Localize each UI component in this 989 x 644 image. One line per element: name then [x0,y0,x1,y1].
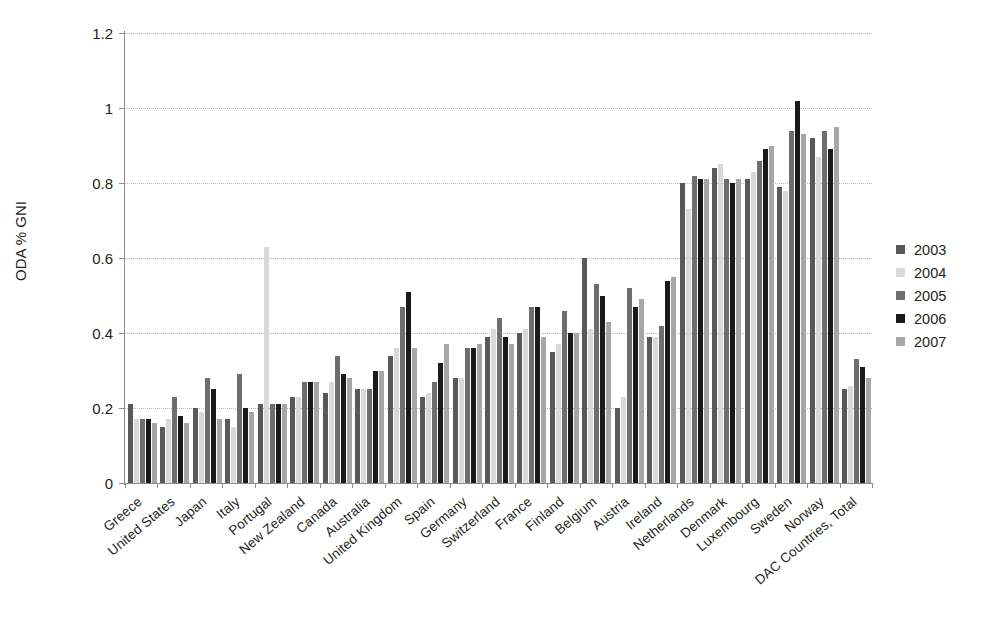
bar [665,281,670,484]
x-tick-mark [742,483,743,488]
bar [503,337,508,483]
x-tick-mark [612,483,613,488]
bar [588,329,593,483]
bar [686,209,691,483]
bar [444,344,449,483]
bar [777,187,782,483]
bar [412,348,417,483]
y-tick-label: 0.4 [92,325,113,342]
x-tick-mark [710,483,711,488]
bar [400,307,405,483]
bar-group [712,33,741,483]
legend-item[interactable]: 2005 [896,284,946,307]
bar-group [225,33,254,483]
x-tick-mark [255,483,256,488]
bar-group [128,33,157,483]
bar-group [550,33,579,483]
bar [659,326,664,484]
x-tick-mark [450,483,451,488]
legend-label: 2007 [914,334,946,350]
bar-group [160,33,189,483]
bar [211,389,216,483]
bar-group [745,33,774,483]
bar [314,382,319,483]
bar [615,408,620,483]
y-tick-label: 0.6 [92,250,113,267]
bar [535,307,540,483]
x-tick-mark [807,483,808,488]
legend-label: 2005 [914,288,946,304]
x-axis-line [124,483,873,484]
bar [582,258,587,483]
legend-item[interactable]: 2003 [896,238,946,261]
y-tick-mark [119,33,124,34]
bar [574,333,579,483]
bar [795,101,800,484]
y-tick-label: 0.2 [92,400,113,417]
bar [517,333,522,483]
plot-area [125,33,872,483]
bar [367,389,372,483]
x-tick-mark [840,483,841,488]
x-tick-mark [287,483,288,488]
x-tick-mark [515,483,516,488]
bar [282,404,287,483]
bar [329,382,334,483]
bar [606,322,611,483]
bar [718,164,723,483]
bar [335,356,340,484]
bar [258,404,263,483]
y-tick-mark [119,333,124,334]
chart-legend: 20032004200520062007 [896,238,946,353]
bar [379,371,384,484]
bar [550,352,555,483]
bar [276,404,281,483]
x-tick-mark [222,483,223,488]
bar-chart: ODA % GNI 00.20.40.60.811.2 GreeceUnited… [0,0,989,644]
bar [249,412,254,483]
bar [264,247,269,483]
bar [639,299,644,483]
y-tick-mark [119,183,124,184]
bar [633,307,638,483]
bar [471,348,476,483]
legend-item[interactable]: 2007 [896,330,946,353]
legend-item[interactable]: 2004 [896,261,946,284]
y-axis-title: ODA % GNI [12,201,29,281]
bar [270,404,275,483]
bar-group [290,33,319,483]
bar [828,149,833,483]
bar [453,378,458,483]
x-tick-mark [385,483,386,488]
bar-group [323,33,352,483]
bar [751,172,756,483]
bar [146,419,151,483]
y-tick-mark [119,408,124,409]
y-tick-label: 0.8 [92,175,113,192]
bar [172,397,177,483]
legend-label: 2003 [914,242,946,258]
bar [541,337,546,483]
bar [237,374,242,483]
bar [491,329,496,483]
legend-item[interactable]: 2006 [896,307,946,330]
x-tick-mark [482,483,483,488]
bar-group [517,33,546,483]
x-tick-mark [775,483,776,488]
bar [860,367,865,483]
bar [801,134,806,483]
bar [724,179,729,483]
bar [290,397,295,483]
bar [783,191,788,484]
x-tick-mark [417,483,418,488]
bar [745,179,750,483]
bar [438,363,443,483]
bar [394,348,399,483]
bar [302,382,307,483]
bar [763,149,768,483]
x-tick-mark [580,483,581,488]
bar [308,382,313,483]
bar-group [680,33,709,483]
legend-swatch-icon [896,291,905,300]
bar [789,131,794,484]
